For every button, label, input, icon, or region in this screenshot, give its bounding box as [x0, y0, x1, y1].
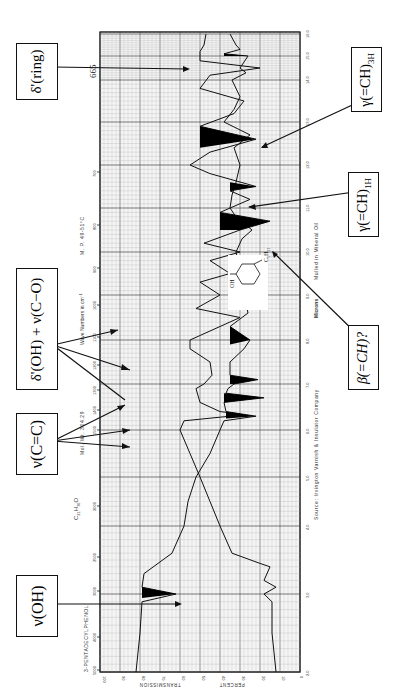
micron-tick-label: 7.0 — [305, 382, 310, 388]
label-box-gamma-3h: γ(=CH)3H — [351, 47, 382, 112]
label-nu-oh: ν(OH) — [28, 586, 46, 627]
source-credit: Source: Irvington Varnish & Insulator Co… — [313, 389, 319, 520]
transmission-tick-label: 20 — [261, 676, 266, 681]
micron-tick-label: 15.0 — [305, 51, 310, 60]
micron-tick-label: 12.0 — [305, 160, 310, 169]
micron-tick-label: 2.0 — [305, 670, 310, 676]
micron-tick-label: 3.0 — [305, 592, 310, 598]
melting-point: M. P. 49-51°C — [79, 216, 85, 255]
wavenumber-tick-label: 1000 — [92, 300, 97, 310]
micron-tick-label: 11.0 — [305, 204, 310, 212]
wavenumber-tick-label: 700 — [92, 170, 97, 177]
wavenumber-tick-label: 2000 — [92, 501, 97, 511]
wavenumber-tick-label: 1400 — [92, 405, 97, 415]
micron-tick-label: 9.0 — [305, 293, 310, 299]
compound-title: 3-PENTADECYLPHENOL — [83, 605, 89, 672]
label-delta-oh: δ'(OH) + ν(C−O) — [29, 277, 46, 380]
percent-label: PERCENT — [219, 682, 245, 687]
label-nu-cc: ν(C=C) — [28, 420, 46, 468]
micron-tick-label: 8.0 — [305, 338, 310, 344]
transmission-axis: 1009080706050403020100 — [102, 676, 304, 683]
transmission-tick-label: 100 — [102, 676, 107, 683]
sample-prep: Mulled in Mineral Oil — [313, 222, 319, 280]
micron-tick-label: 6.0 — [305, 428, 310, 434]
wavenumber-tick-label: 2500 — [92, 552, 97, 562]
micron-tick-label: 16.0 — [305, 29, 310, 38]
transmission-tick-label: 80 — [141, 676, 146, 681]
wavenumber-axis: 5000400030002500200015001400130012001100… — [92, 170, 100, 675]
label-box-delta-ring: δ'(ring) — [16, 43, 58, 100]
label-box-nu-cc: ν(C=C) — [16, 413, 58, 475]
wavenumber-tick-label: 3000 — [92, 586, 97, 596]
peak-665-label: 665 — [88, 64, 98, 78]
wavenumber-tick-label: 1100 — [92, 333, 97, 342]
transmission-tick-label: 90 — [121, 676, 126, 681]
ir-spectrum-figure: 5000400030002500200015001400130012001100… — [0, 0, 395, 697]
label-box-beta-ch: β(=CH)? — [348, 325, 379, 390]
wavenumber-tick-label: 1500 — [92, 425, 97, 435]
transmission-tick-label: 50 — [201, 676, 206, 681]
micron-tick-label: 4.0 — [305, 524, 310, 530]
molecular-weight: Mol. Wt. 304.29 — [79, 411, 85, 455]
micron-tick-label: 5.0 — [305, 475, 310, 481]
label-box-nu-oh: ν(OH) — [16, 575, 58, 637]
transmission-tick-label: 70 — [161, 676, 166, 681]
label-box-gamma-1h: γ(=CH)1H — [348, 172, 379, 237]
transmission-tick-label: 10 — [281, 676, 286, 681]
wavenumber-tick-label: 900 — [92, 266, 97, 273]
label-beta-ch: β(=CH)? — [356, 331, 372, 383]
transmission-tick-label: 30 — [241, 676, 246, 681]
structure-oh: OH — [229, 279, 235, 288]
wavenumber-tick-label: 1300 — [92, 385, 97, 395]
spectrum-chart: 5000400030002500200015001400130012001100… — [0, 0, 395, 697]
transmission-tick-label: 40 — [221, 676, 226, 681]
wavenumber-tick-label: 5000 — [92, 665, 97, 675]
label-gamma-3h: γ(=CH)3H — [358, 53, 376, 107]
micron-tick-label: 10.0 — [305, 247, 310, 256]
wavenumber-tick-label: 1200 — [92, 360, 97, 370]
label-box-delta-oh: δ'(OH) + ν(C−O) — [16, 268, 58, 390]
transmission-tick-label: 60 — [181, 676, 186, 681]
structure-diagram: OH C5H11 — [228, 248, 271, 310]
microns-label: Microns — [313, 299, 319, 318]
molecular-formula: C21H36O — [73, 497, 81, 520]
wavenumber-tick-label: 4000 — [92, 632, 97, 642]
wavenumber-tick-label: 800 — [92, 223, 97, 230]
micron-tick-label: 14.0 — [305, 75, 310, 84]
label-delta-ring: δ'(ring) — [29, 50, 46, 94]
transmission-tick-label: 0 — [299, 676, 304, 679]
transmission-label: TRANSMISSION — [139, 682, 180, 687]
label-gamma-1h: γ(=CH)1H — [355, 178, 373, 232]
